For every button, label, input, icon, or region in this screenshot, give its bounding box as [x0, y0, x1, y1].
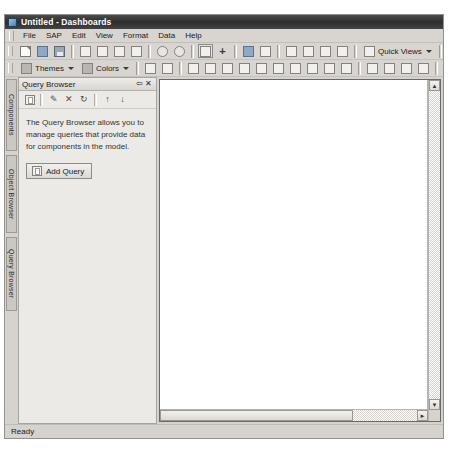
start-page-button[interactable]: Start Page: [442, 61, 443, 75]
vscroll-up-arrow[interactable]: ▲: [429, 80, 440, 91]
send-to-back-icon[interactable]: [416, 61, 431, 75]
dashboards-icon: [8, 18, 17, 27]
title-bar: Untitled - Dashboards: [5, 15, 443, 29]
canvas-horizontal-scrollbar[interactable]: ►: [160, 409, 428, 421]
layout-icon[interactable]: [318, 44, 333, 58]
menu-file[interactable]: File: [18, 30, 41, 41]
panel-title: Query Browser: [22, 80, 135, 89]
align-left-icon[interactable]: [143, 61, 158, 75]
menu-format[interactable]: Format: [118, 30, 153, 41]
toolbar-separator: [71, 45, 74, 58]
design-canvas[interactable]: [160, 80, 428, 409]
spacing-icon[interactable]: [322, 61, 337, 75]
format-toolbar-grip[interactable]: [8, 63, 13, 73]
sidebar-item-query-browser[interactable]: Query Browser: [6, 237, 17, 311]
sidebar-tab-label: Query Browser: [8, 249, 15, 298]
distribute-vertical-icon[interactable]: [271, 61, 286, 75]
toolbar-separator: [277, 45, 280, 58]
add-query-button[interactable]: Add Query: [26, 163, 92, 179]
application-window: Untitled - Dashboards File SAP Edit View…: [0, 0, 461, 459]
sidebar-tab-label: Components: [8, 94, 15, 136]
chevron-down-icon[interactable]: [426, 50, 432, 53]
delete-query-icon[interactable]: ✕: [61, 93, 76, 107]
properties-icon[interactable]: [335, 44, 350, 58]
redo-icon[interactable]: [172, 44, 187, 58]
menu-edit[interactable]: Edit: [67, 30, 91, 41]
copy-icon[interactable]: [112, 44, 127, 58]
refresh-query-icon[interactable]: ↻: [76, 93, 91, 107]
colors-button[interactable]: Colors: [79, 61, 132, 75]
edit-query-icon[interactable]: ✎: [46, 93, 61, 107]
size-icon[interactable]: [339, 61, 354, 75]
hscroll-right-arrow[interactable]: ►: [417, 410, 428, 421]
themes-label: Themes: [35, 64, 64, 73]
print-icon[interactable]: [78, 44, 93, 58]
quick-views-button[interactable]: Quick Views: [361, 44, 435, 58]
menu-view[interactable]: View: [91, 30, 118, 41]
sidebar-tabstrip: Components Object Browser Query Browser: [5, 77, 18, 424]
new-icon[interactable]: [18, 44, 33, 58]
menu-help[interactable]: Help: [180, 30, 206, 41]
hscroll-thumb[interactable]: [160, 410, 353, 421]
hscroll-track[interactable]: [353, 410, 417, 421]
grid-icon[interactable]: [284, 44, 299, 58]
same-height-icon[interactable]: [305, 61, 320, 75]
toolbar-separator: [439, 45, 442, 58]
undo-icon[interactable]: [155, 44, 170, 58]
sidebar-item-object-browser[interactable]: Object Browser: [6, 155, 17, 233]
chevron-down-icon[interactable]: [123, 67, 129, 70]
save-icon[interactable]: [52, 44, 67, 58]
quick-views-label: Quick Views: [378, 47, 422, 56]
menu-grip[interactable]: [9, 31, 14, 41]
align-right-icon[interactable]: [186, 61, 201, 75]
toolbar-separator: [354, 45, 357, 58]
panel-toolbar: ✎ ✕ ↻ ↑ ↓: [19, 91, 156, 109]
panel-header: Query Browser ⇦ ✕: [19, 78, 156, 91]
scrollbar-corner: [429, 410, 440, 421]
toolbar-separator: [148, 45, 151, 58]
format-toolbar: Themes Colors: [5, 60, 443, 77]
panel-description: The Query Browser allows you to manage q…: [26, 117, 149, 153]
main-toolbar: + Quick Views Preview: [5, 43, 443, 60]
distribute-horizontal-icon[interactable]: [254, 61, 269, 75]
bring-to-front-icon[interactable]: [365, 61, 380, 75]
open-icon[interactable]: [35, 44, 50, 58]
panel-toolbar-separator: [94, 94, 97, 106]
menu-sap[interactable]: SAP: [41, 30, 67, 41]
toolbar-separator: [358, 62, 361, 75]
vscroll-down-arrow[interactable]: ▼: [429, 399, 440, 410]
chevron-down-icon[interactable]: [68, 67, 74, 70]
canvas-frame: ► ▲ ▼: [159, 79, 441, 422]
canvas-vertical-scrollbar[interactable]: ▲ ▼: [428, 80, 440, 421]
sidebar-item-components[interactable]: Components: [6, 79, 17, 151]
themes-button[interactable]: Themes: [18, 61, 77, 75]
send-backward-icon[interactable]: [399, 61, 414, 75]
cut-icon[interactable]: [95, 44, 110, 58]
move-up-icon[interactable]: ↑: [100, 93, 115, 107]
panel-body: The Query Browser allows you to manage q…: [19, 109, 156, 423]
add-query-icon[interactable]: [22, 93, 37, 107]
align-center-icon[interactable]: [160, 61, 175, 75]
spreadsheet-import-icon[interactable]: [241, 44, 256, 58]
vscroll-track[interactable]: [429, 91, 440, 399]
bring-forward-icon[interactable]: [382, 61, 397, 75]
toolbar-separator: [179, 62, 182, 75]
snap-icon[interactable]: [301, 44, 316, 58]
work-area: Components Object Browser Query Browser …: [5, 77, 443, 424]
add-icon[interactable]: +: [215, 44, 230, 58]
align-middle-icon[interactable]: [220, 61, 235, 75]
paste-icon[interactable]: [129, 44, 144, 58]
align-top-icon[interactable]: [203, 61, 218, 75]
add-query-button-icon: [32, 166, 42, 176]
spreadsheet-export-icon[interactable]: [258, 44, 273, 58]
pin-icon[interactable]: ⇦: [135, 80, 144, 89]
move-down-icon[interactable]: ↓: [115, 93, 130, 107]
same-width-icon[interactable]: [288, 61, 303, 75]
add-query-button-label: Add Query: [46, 167, 84, 176]
align-bottom-icon[interactable]: [237, 61, 252, 75]
toolbar-grip[interactable]: [8, 46, 13, 56]
menu-data[interactable]: Data: [153, 30, 180, 41]
colors-icon: [82, 63, 93, 74]
canvas-icon[interactable]: [198, 44, 213, 58]
close-icon[interactable]: ✕: [144, 80, 153, 89]
